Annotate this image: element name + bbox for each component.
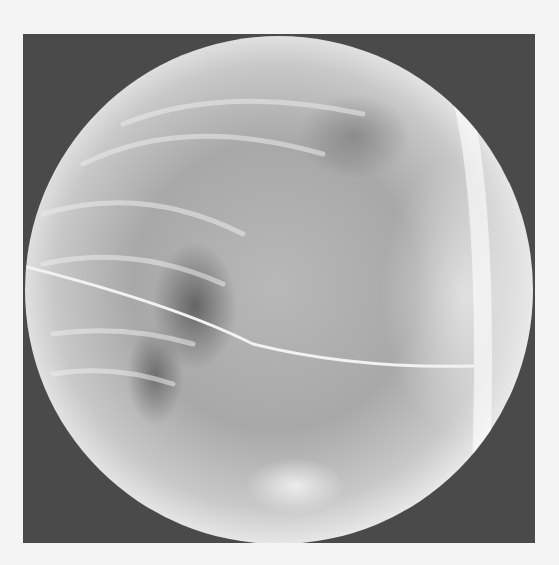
catheter-wire	[23, 266, 473, 366]
xray-frame	[23, 34, 535, 543]
anatomy-overlay	[23, 34, 535, 543]
ribs	[43, 101, 363, 384]
